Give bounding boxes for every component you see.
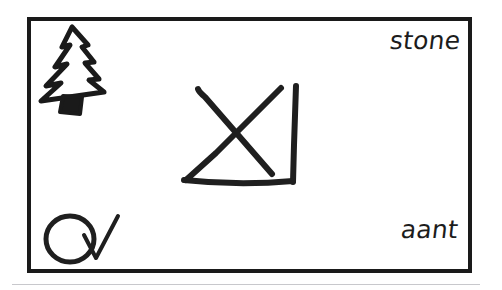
card-scene: stone aant <box>0 0 502 290</box>
label-aant: aant <box>399 215 460 244</box>
label-stone: stone <box>388 26 462 55</box>
page-baseline-rule <box>12 284 480 285</box>
